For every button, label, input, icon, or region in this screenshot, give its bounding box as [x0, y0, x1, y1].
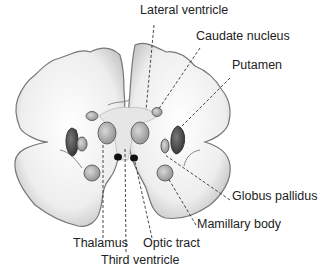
caudate-right	[152, 108, 162, 117]
globus-right	[161, 139, 169, 153]
label-lateral-ventricle: Lateral ventricle	[140, 4, 228, 17]
globus-left	[77, 137, 87, 151]
putamen-left	[66, 128, 78, 156]
label-putamen: Putamen	[232, 59, 282, 72]
label-globus-pallidus: Globus pallidus	[232, 190, 317, 203]
label-optic-tract: Optic tract	[143, 237, 200, 250]
label-third-ventricle: Third ventricle	[101, 254, 180, 267]
caudate-left	[86, 112, 98, 121]
label-caudate-nucleus: Caudate nucleus	[196, 30, 290, 43]
thalamus-left	[98, 122, 116, 144]
brain-coronal-diagram: Lateral ventricle Caudate nucleus Putame…	[0, 0, 322, 276]
label-thalamus: Thalamus	[73, 237, 128, 250]
thalamus-right	[131, 122, 149, 144]
label-mamillary-body: Mamillary body	[197, 218, 281, 231]
